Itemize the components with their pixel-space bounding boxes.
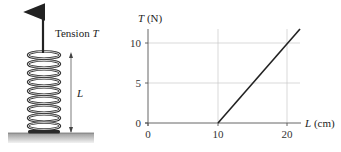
y-tick-0: 0 <box>136 117 142 129</box>
tick-marks <box>145 43 287 126</box>
length-dimension <box>69 52 73 133</box>
tension-label: Tension T <box>55 27 99 39</box>
spring-figure: Tension T L <box>8 12 99 143</box>
figure-canvas: Tension T L 0 <box>0 0 341 152</box>
y-tick-10: 10 <box>130 37 142 49</box>
x-axis-unit: (cm) <box>311 117 335 130</box>
y-axis-title: T (N) <box>138 12 162 25</box>
tension-label-prefix: Tension <box>55 27 92 39</box>
x-axis-var: L <box>304 117 311 129</box>
x-tick-10: 10 <box>213 128 225 140</box>
x-tick-20: 20 <box>282 128 294 140</box>
tension-length-graph: 0 5 10 0 10 20 T (N) L (cm) <box>130 12 335 140</box>
grid-lines <box>148 29 300 123</box>
x-axis-title: L (cm) <box>304 117 335 130</box>
ground <box>8 133 94 143</box>
y-tick-5: 5 <box>136 77 142 89</box>
spring-coils <box>28 51 60 129</box>
tension-label-var: T <box>92 27 99 39</box>
x-tick-0: 0 <box>145 128 151 140</box>
y-axis-unit: (N) <box>144 12 162 25</box>
length-label: L <box>76 87 83 99</box>
